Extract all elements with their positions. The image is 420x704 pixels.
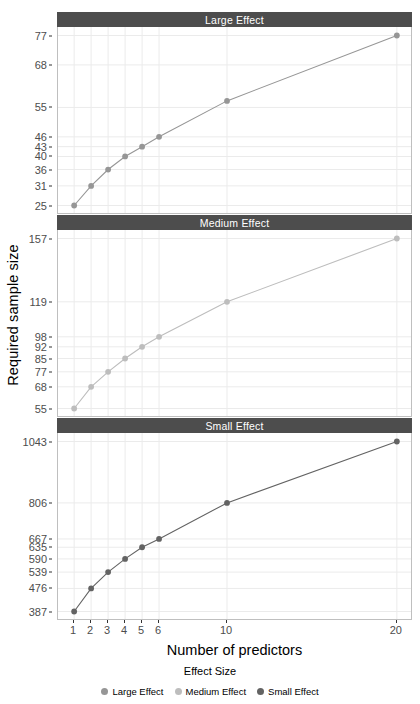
y-tick-label: 92 xyxy=(35,341,47,353)
data-point xyxy=(71,406,77,412)
y-axis-title: Required sample size xyxy=(0,0,26,630)
data-point xyxy=(224,299,230,305)
y-axis-ticks: 3874765395906356678061043 xyxy=(0,433,52,620)
data-point xyxy=(105,167,111,173)
legend-item-1[interactable]: Large Effect xyxy=(101,686,163,697)
y-tick-mark xyxy=(49,538,52,539)
y-tick-mark xyxy=(49,588,52,589)
y-tick-label: 36 xyxy=(35,164,47,176)
y-tick-label: 387 xyxy=(29,606,47,618)
legend-item-label: Large Effect xyxy=(112,686,163,697)
facet-panel-1: Large Effect xyxy=(57,12,412,214)
x-tick-label: 6 xyxy=(155,624,161,636)
y-tick-label: 55 xyxy=(35,101,47,113)
data-point xyxy=(224,98,230,104)
data-point xyxy=(88,384,94,390)
plot-area xyxy=(57,27,412,214)
y-tick-mark xyxy=(49,572,52,573)
y-tick-label: 806 xyxy=(29,497,47,509)
y-tick-mark xyxy=(49,336,52,337)
x-tick-mark xyxy=(396,620,397,623)
legend-dot-icon xyxy=(175,688,182,695)
x-tick-label: 10 xyxy=(220,624,232,636)
plot-area xyxy=(57,433,412,620)
y-tick-label: 40 xyxy=(35,150,47,162)
data-point xyxy=(394,236,400,242)
x-tick-mark xyxy=(226,620,227,623)
x-tick-mark xyxy=(73,620,74,623)
data-point xyxy=(71,203,77,209)
y-tick-mark xyxy=(49,156,52,157)
y-tick-label: 1043 xyxy=(23,436,47,448)
y-tick-mark xyxy=(49,185,52,186)
y-tick-label: 590 xyxy=(29,553,47,565)
y-tick-mark xyxy=(49,358,52,359)
plot-area xyxy=(57,230,412,417)
data-line xyxy=(74,36,397,206)
data-point xyxy=(139,144,145,150)
y-tick-label: 55 xyxy=(35,403,47,415)
y-tick-label: 476 xyxy=(29,582,47,594)
data-point xyxy=(394,439,400,445)
y-tick-mark xyxy=(49,35,52,36)
data-point xyxy=(105,569,111,575)
data-point xyxy=(122,154,128,160)
y-axis-title-text: Required sample size xyxy=(5,244,21,385)
facet-panel-3: Small Effect xyxy=(57,418,412,620)
legend-item-label: Medium Effect xyxy=(186,686,247,697)
y-tick-label: 157 xyxy=(29,233,47,245)
data-point xyxy=(105,369,111,375)
y-tick-label: 31 xyxy=(35,180,47,192)
x-tick-mark xyxy=(141,620,142,623)
legend-item-2[interactable]: Medium Effect xyxy=(175,686,247,697)
y-tick-mark xyxy=(49,386,52,387)
y-tick-label: 46 xyxy=(35,131,47,143)
facet-strip-label: Medium Effect xyxy=(57,215,412,230)
data-point xyxy=(156,134,162,140)
y-tick-mark xyxy=(49,64,52,65)
x-tick-mark xyxy=(158,620,159,623)
legend-title: Effect Size xyxy=(0,665,420,677)
data-line xyxy=(74,239,397,409)
x-tick-mark xyxy=(124,620,125,623)
y-tick-mark xyxy=(49,238,52,239)
y-axis-ticks: 556877859298119157 xyxy=(0,230,52,417)
x-tick-label: 5 xyxy=(138,624,144,636)
x-tick-label: 1 xyxy=(70,624,76,636)
legend-dot-icon xyxy=(257,688,264,695)
y-tick-mark xyxy=(49,547,52,548)
data-point xyxy=(156,334,162,340)
facet-line-chart: Required sample size Large EffectMedium … xyxy=(0,0,420,704)
x-axis-ticks: 1234561020 xyxy=(57,620,412,638)
y-tick-mark xyxy=(49,146,52,147)
data-point xyxy=(122,356,128,362)
y-tick-mark xyxy=(49,107,52,108)
data-point xyxy=(394,33,400,39)
x-tick-label: 20 xyxy=(390,624,402,636)
y-tick-mark xyxy=(49,301,52,302)
legend-keys: Large EffectMedium EffectSmall Effect xyxy=(0,686,420,697)
y-tick-mark xyxy=(49,558,52,559)
data-point xyxy=(122,556,128,562)
x-tick-label: 2 xyxy=(87,624,93,636)
data-point xyxy=(71,609,77,615)
data-point xyxy=(139,344,145,350)
x-tick-mark xyxy=(90,620,91,623)
y-tick-label: 98 xyxy=(35,331,47,343)
y-tick-label: 25 xyxy=(35,200,47,212)
x-tick-mark xyxy=(107,620,108,623)
y-tick-mark xyxy=(49,205,52,206)
y-tick-label: 77 xyxy=(35,366,47,378)
y-tick-mark xyxy=(49,136,52,137)
y-tick-label: 119 xyxy=(29,296,47,308)
data-point xyxy=(88,586,94,592)
x-axis-title: Number of predictors xyxy=(57,642,412,658)
data-point xyxy=(139,544,145,550)
data-point xyxy=(224,500,230,506)
y-tick-label: 539 xyxy=(29,566,47,578)
y-tick-mark xyxy=(49,169,52,170)
data-point xyxy=(156,536,162,542)
legend-item-3[interactable]: Small Effect xyxy=(257,686,319,697)
y-tick-mark xyxy=(49,441,52,442)
y-tick-label: 77 xyxy=(35,30,47,42)
